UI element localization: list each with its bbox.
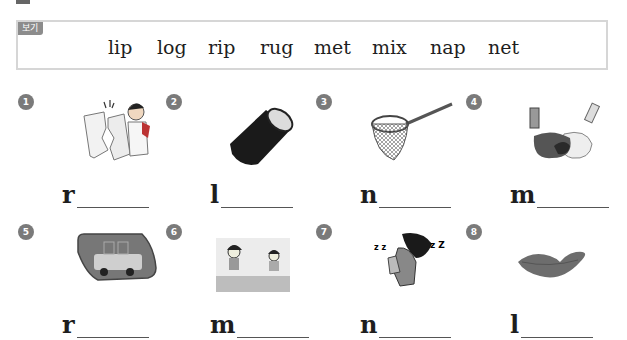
answer-field[interactable]: n xyxy=(360,312,451,338)
exercise-item-2: 2 l xyxy=(166,94,316,219)
exercise-item-3: 3 n xyxy=(316,94,466,219)
word-item: rip xyxy=(208,34,235,60)
corner-marker xyxy=(16,0,30,4)
word-box: 보기 lip log rip rug met mix nap net xyxy=(16,20,608,70)
exercise-item-4: 4 m xyxy=(466,94,616,219)
first-letter: l xyxy=(510,312,519,338)
answer-field[interactable]: m xyxy=(210,312,309,338)
word-item: log xyxy=(157,34,187,60)
butterfly-net-icon xyxy=(362,98,458,170)
first-letter: n xyxy=(360,182,377,208)
answer-blank[interactable] xyxy=(77,317,149,338)
kids-meeting-icon xyxy=(212,228,308,300)
number-badge: 2 xyxy=(166,94,182,110)
car-rug-icon xyxy=(64,228,160,300)
first-letter: r xyxy=(62,182,75,208)
number-badge: 3 xyxy=(316,94,332,110)
answer-field[interactable]: l xyxy=(510,312,593,338)
first-letter: l xyxy=(210,182,219,208)
lips-icon xyxy=(512,228,608,300)
word-item: nap xyxy=(430,34,466,60)
answer-field[interactable]: m xyxy=(510,182,609,208)
first-letter: m xyxy=(510,182,535,208)
word-item: net xyxy=(488,34,519,60)
exercise-item-7: 7 z z z Z n xyxy=(316,224,466,340)
answer-blank[interactable] xyxy=(77,187,149,208)
exercise-item-6: 6 m xyxy=(166,224,316,340)
svg-text:z Z: z Z xyxy=(430,240,445,250)
answer-field[interactable]: n xyxy=(360,182,451,208)
answer-blank[interactable] xyxy=(521,317,593,338)
answer-blank[interactable] xyxy=(537,187,609,208)
answer-blank[interactable] xyxy=(379,187,451,208)
exercise-item-5: 5 r xyxy=(18,224,168,340)
number-badge: 6 xyxy=(166,224,182,240)
answer-blank[interactable] xyxy=(237,317,309,338)
exercise-item-8: 8 l xyxy=(466,224,616,340)
first-letter: m xyxy=(210,312,235,338)
tearing-paper-icon xyxy=(64,98,160,170)
log-icon xyxy=(212,98,308,170)
answer-blank[interactable] xyxy=(221,187,293,208)
first-letter: r xyxy=(62,312,75,338)
svg-text:z z: z z xyxy=(374,243,386,252)
number-badge: 5 xyxy=(18,224,34,240)
number-badge: 1 xyxy=(18,94,34,110)
answer-field[interactable]: l xyxy=(210,182,293,208)
exercise-item-1: 1 r xyxy=(18,94,168,219)
word-item: rug xyxy=(260,34,293,60)
number-badge: 7 xyxy=(316,224,332,240)
word-item: lip xyxy=(108,34,132,60)
paint-mix-icon xyxy=(512,98,608,170)
word-item: met xyxy=(314,34,351,60)
word-item: mix xyxy=(372,34,407,60)
number-badge: 4 xyxy=(466,94,482,110)
first-letter: n xyxy=(360,312,377,338)
answer-blank[interactable] xyxy=(379,317,451,338)
sleeping-kids-icon: z z z Z xyxy=(362,228,458,300)
word-list: lip log rip rug met mix nap net xyxy=(18,34,606,60)
answer-field[interactable]: r xyxy=(62,312,149,338)
number-badge: 8 xyxy=(466,224,482,240)
answer-field[interactable]: r xyxy=(62,182,149,208)
